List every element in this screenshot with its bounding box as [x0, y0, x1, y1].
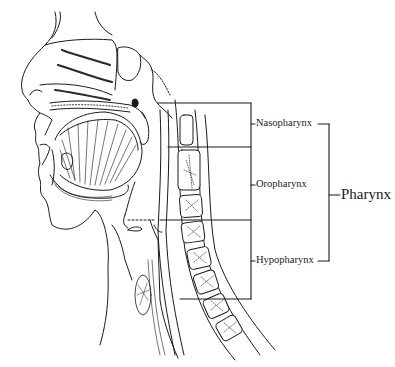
label-pharynx: Pharynx: [341, 187, 391, 202]
nasal-cavity: [30, 39, 117, 100]
cervical-spine: [175, 100, 275, 360]
label-nasopharynx: Nasopharynx: [256, 118, 312, 129]
tongue: [50, 112, 142, 201]
pharynx-anatomy-diagram: Nasopharynx Oropharynx Hypopharynx Phary…: [0, 0, 395, 367]
palate: [50, 99, 145, 118]
larynx: [112, 182, 155, 315]
lips: [40, 113, 54, 185]
label-oropharynx: Oropharynx: [256, 179, 307, 190]
label-hypopharynx: Hypopharynx: [256, 255, 314, 266]
skull-base: [118, 47, 172, 118]
